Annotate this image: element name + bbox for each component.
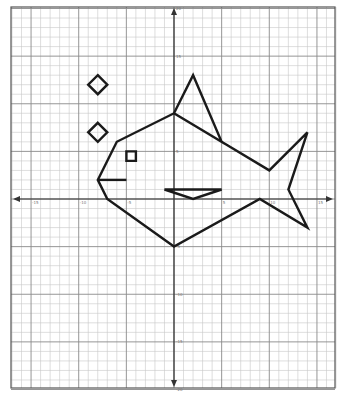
x-tick-label: 10: [270, 200, 276, 205]
x-tick-label: -15: [32, 200, 39, 205]
fish-graph: -15-10-55101520155-5-10-15-20: [0, 0, 343, 402]
y-tick-label: 15: [176, 54, 182, 59]
x-axis-right-arrow-icon: [326, 196, 333, 202]
y-axis-down-arrow-icon: [171, 380, 177, 387]
x-tick-label: 5: [223, 200, 226, 205]
coordinate-grid-figure: -15-10-55101520155-5-10-15-20: [0, 0, 343, 402]
axes: [13, 8, 333, 387]
x-tick-label: -5: [127, 200, 131, 205]
y-tick-label: -15: [176, 339, 183, 344]
x-tick-label: 15: [318, 200, 324, 205]
y-tick-label: -20: [176, 387, 183, 392]
x-axis-left-arrow-icon: [13, 196, 20, 202]
y-tick-label: 20: [176, 6, 182, 11]
x-tick-label: -10: [80, 200, 87, 205]
eye: [126, 151, 135, 161]
y-tick-label: -10: [176, 292, 183, 297]
